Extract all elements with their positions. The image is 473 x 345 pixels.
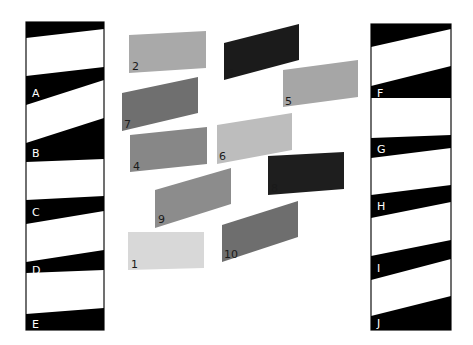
- band-label-j: J: [376, 317, 380, 330]
- patch-5: 5: [283, 60, 358, 108]
- band-label-h: H: [377, 200, 385, 213]
- lightness-matching-figure: ABCDE FGHIJ 12345678910: [0, 0, 473, 345]
- diagram-canvas: ABCDE FGHIJ 12345678910: [0, 0, 473, 345]
- patch-10: 10: [222, 201, 298, 262]
- right-reference-column: FGHIJ: [371, 24, 451, 330]
- band-label-f: F: [377, 87, 383, 100]
- band-label-d: D: [32, 264, 40, 277]
- patch-2-swatch: [129, 31, 206, 73]
- band-label-g: G: [377, 143, 386, 156]
- patch-number-label: 1: [131, 258, 138, 271]
- patch-1: 1: [128, 232, 204, 271]
- patch-number-label: 3: [227, 67, 234, 80]
- patch-9-swatch: [155, 168, 231, 228]
- patch-number-label: 5: [285, 95, 292, 108]
- patch-7-swatch: [122, 77, 198, 131]
- patch-number-label: 6: [219, 150, 226, 163]
- patch-number-label: 8: [271, 182, 278, 195]
- patch-7: 7: [122, 77, 198, 131]
- patch-8: 8: [268, 152, 344, 195]
- patch-number-label: 2: [132, 60, 139, 73]
- patch-5-swatch: [283, 60, 358, 107]
- patch-4: 4: [130, 127, 207, 173]
- patch-4-swatch: [130, 127, 207, 172]
- left_column-frame: [26, 22, 104, 330]
- band-label-c: C: [32, 206, 40, 219]
- patch-8-swatch: [268, 152, 344, 195]
- band-label-b: B: [32, 147, 40, 160]
- band-label-i: I: [377, 262, 380, 275]
- patch-9: 9: [155, 168, 231, 228]
- left-reference-column: ABCDE: [26, 22, 104, 331]
- patch-number-label: 7: [124, 118, 131, 131]
- patch-number-label: 4: [133, 160, 140, 173]
- band-label-e: E: [32, 318, 39, 331]
- patch-2: 2: [129, 31, 206, 73]
- gray-patches: 12345678910: [122, 24, 358, 271]
- patch-number-label: 10: [224, 248, 238, 261]
- patch-1-swatch: [128, 232, 204, 270]
- band-label-a: A: [32, 87, 40, 100]
- patch-number-label: 9: [158, 213, 165, 226]
